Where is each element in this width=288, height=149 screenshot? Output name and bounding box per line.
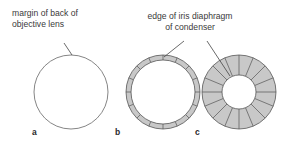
panel-letter-b: b: [115, 127, 120, 137]
panel-letter-a: a: [32, 127, 37, 137]
iris-edge-label-line2: of condenser: [142, 22, 238, 33]
panel-b-ring: [126, 55, 200, 129]
panel-c-ring: [202, 55, 276, 129]
iris-edge-label: edge of iris diaphragm of condenser: [142, 11, 238, 32]
panel-letter-c: c: [195, 127, 200, 137]
objective-margin-label-line2: objective lens: [12, 19, 78, 30]
panel-a-circle: [34, 55, 108, 129]
objective-margin-label-line1: margin of back of: [12, 8, 78, 19]
iris-diaphragm-figure: margin of back of objective lens edge of…: [0, 0, 288, 149]
objective-margin-label: margin of back of objective lens: [12, 8, 78, 29]
iris-edge-label-line1: edge of iris diaphragm: [142, 11, 238, 22]
leader-line-iris-b: [164, 41, 184, 57]
leader-line-objective: [64, 43, 72, 55]
